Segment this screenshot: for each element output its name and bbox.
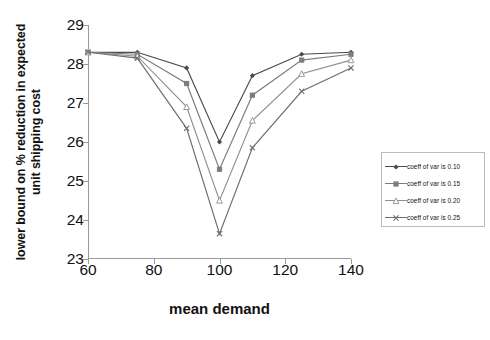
y-tick-mark (83, 25, 88, 26)
x-tick-label: 140 (328, 262, 374, 278)
y-axis-title-line1: lower bound on % reduction in expected (14, 24, 28, 261)
y-tick-label: 29 (44, 17, 84, 33)
x-tick-label: 100 (197, 262, 243, 278)
series-0 (85, 50, 353, 145)
y-tick-mark (83, 181, 88, 182)
data-point-triangle (348, 57, 354, 63)
data-point-square (348, 52, 353, 57)
data-point-square (299, 58, 304, 63)
y-tick-label: 27 (44, 95, 84, 111)
legend-item: coeff of var is 0.15 (385, 175, 481, 192)
y-tick-label: 25 (44, 173, 84, 189)
data-point-diamond (299, 52, 304, 57)
legend-label: coeff of var is 0.10 (407, 163, 460, 170)
data-point-diamond (217, 139, 222, 144)
series-2 (85, 49, 354, 203)
data-point-square (184, 81, 189, 86)
y-tick-mark (83, 142, 88, 143)
chart-figure: lower bound on % reduction in expected u… (0, 0, 490, 340)
legend-marker-x-icon (385, 212, 407, 224)
plot-area (88, 25, 351, 259)
data-point-diamond (393, 164, 398, 169)
y-tick-label: 24 (44, 212, 84, 228)
data-point-x (250, 145, 255, 150)
data-point-x (348, 65, 353, 70)
legend-item: coeff of var is 0.20 (385, 192, 481, 209)
y-tick-mark (83, 220, 88, 221)
legend-item: coeff of var is 0.10 (385, 158, 481, 175)
legend-item: coeff of var is 0.25 (385, 209, 481, 226)
legend: coeff of var is 0.10coeff of var is 0.15… (381, 152, 485, 227)
x-tick-label: 60 (65, 262, 111, 278)
legend-label: coeff of var is 0.15 (407, 180, 460, 187)
y-tick-label: 26 (44, 134, 84, 150)
series-line (88, 52, 351, 169)
data-point-x (299, 89, 304, 94)
data-point-diamond (184, 65, 189, 70)
y-tick-mark (83, 64, 88, 65)
legend-label: coeff of var is 0.20 (407, 197, 460, 204)
data-point-square (393, 181, 398, 186)
data-point-square (217, 167, 222, 172)
series-layer (88, 25, 351, 259)
x-tick-label: 80 (131, 262, 177, 278)
x-tick-label: 120 (262, 262, 308, 278)
x-axis-title: mean demand (88, 300, 351, 317)
series-line (88, 52, 351, 200)
data-point-square (250, 93, 255, 98)
data-point-x (393, 215, 398, 220)
legend-marker-triangle-icon (385, 195, 407, 207)
data-point-triangle (393, 198, 399, 204)
data-point-triangle (217, 198, 223, 204)
y-tick-label: 28 (44, 56, 84, 72)
data-point-diamond (250, 73, 255, 78)
y-axis-tick-labels: 29282726252423 (40, 25, 84, 259)
series-1 (85, 50, 353, 172)
x-axis-tick-labels: 6080100120140 (88, 262, 351, 284)
y-tick-mark (83, 103, 88, 104)
legend-marker-diamond-icon (385, 161, 407, 173)
legend-label: coeff of var is 0.25 (407, 214, 460, 221)
legend-marker-square-icon (385, 178, 407, 190)
series-line (88, 52, 351, 142)
